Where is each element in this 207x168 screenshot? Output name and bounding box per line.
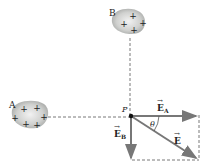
- svg-text:+: +: [20, 104, 28, 114]
- svg-text:+: +: [130, 25, 138, 35]
- point-p-label: P: [121, 105, 128, 114]
- svg-text:+: +: [33, 120, 41, 130]
- svg-text:+: +: [11, 113, 19, 123]
- svg-text:→: →: [157, 97, 163, 105]
- charge-b: + + + + B: [109, 8, 147, 35]
- diagram-canvas: + + + + B + + + + + + A θ P EA → EB →: [0, 0, 207, 168]
- point-p: [129, 114, 133, 118]
- charge-a: + + + + + + A: [8, 100, 48, 130]
- svg-text:→: →: [174, 130, 180, 138]
- svg-text:+: +: [120, 19, 128, 29]
- charge-b-label: B: [109, 8, 116, 18]
- vector-e-resultant: [131, 116, 196, 158]
- svg-text:→: →: [114, 123, 120, 131]
- electric-field-diagram: + + + + B + + + + + + A θ P EA → EB →: [0, 0, 207, 168]
- field-vectors: [131, 116, 196, 158]
- charge-a-label: A: [8, 100, 16, 110]
- svg-text:+: +: [139, 18, 147, 28]
- svg-text:+: +: [129, 11, 137, 21]
- angle-label: θ: [150, 120, 155, 129]
- svg-text:+: +: [40, 112, 48, 122]
- svg-text:+: +: [22, 119, 30, 129]
